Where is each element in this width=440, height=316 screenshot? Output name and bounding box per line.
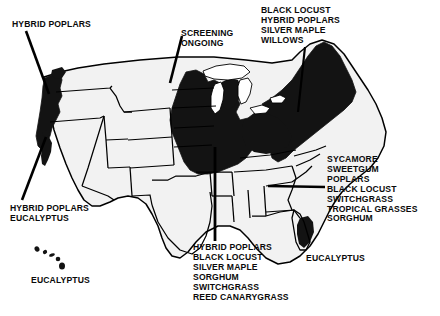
california-label: HYBRID POPLARS EUCALYPTUS — [10, 204, 89, 224]
screening-label-line-2: ONGOING — [181, 39, 233, 49]
florida-label: EUCALYPTUS — [306, 254, 365, 264]
screening-ongoing-label: SCREENING ONGOING — [181, 29, 233, 49]
pacific-northwest-label-line-1: HYBRID POPLARS — [12, 20, 91, 30]
hawaii-label-line-1: EUCALYPTUS — [31, 276, 90, 286]
southeast-label-line-7: SORGHUM — [327, 214, 418, 224]
hawaii-island-big-island — [59, 262, 65, 269]
southeast-label: SYCAMORE SWEETGUM POPLARS BLACK LOCUST S… — [327, 155, 418, 224]
midwest-label-line-6: REED CANARYGRASS — [193, 293, 289, 303]
hawaii-island-maui — [56, 257, 61, 261]
pacific-northwest-label: HYBRID POPLARS — [12, 20, 91, 30]
california-label-line-2: EUCALYPTUS — [10, 214, 89, 224]
hawaii-label: EUCALYPTUS — [31, 276, 90, 286]
midwest-label: HYBRID POPLARS BLACK LOCUST SILVER MAPLE… — [193, 243, 289, 302]
biomass-crops-map-figure: HYBRID POPLARS SCREENING ONGOING BLACK L… — [0, 0, 440, 316]
northeast-label-line-4: WILLOWS — [261, 36, 340, 46]
region-central-valley-dot — [43, 131, 50, 138]
northeast-label: BLACK LOCUST HYBRID POPLARS SILVER MAPLE… — [261, 6, 340, 46]
leader-line-southeast — [268, 186, 325, 187]
florida-label-line-1: EUCALYPTUS — [306, 254, 365, 264]
